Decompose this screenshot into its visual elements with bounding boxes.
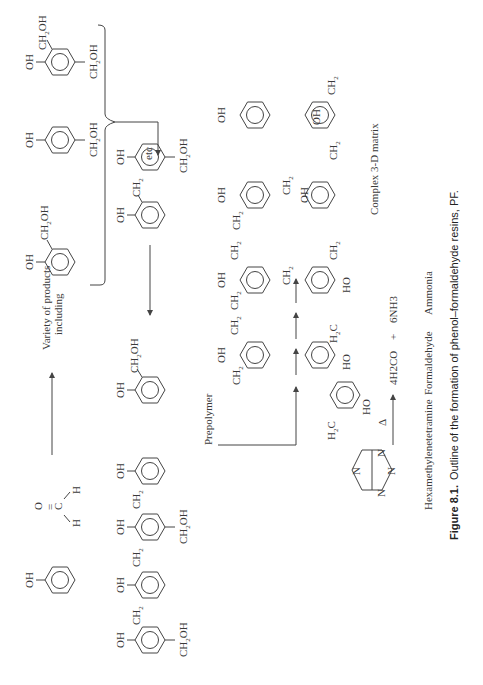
formaldehyde-structure: O = C H H	[32, 486, 82, 527]
ammonia-name: Ammonia	[422, 271, 434, 315]
hmta-structure: N N N N	[350, 449, 397, 497]
svg-text:CH2OH: CH2OH	[177, 622, 192, 657]
matrix-label: Complex 3-D matrix	[368, 123, 380, 215]
methylol-product-1: OH CH2OH	[23, 205, 75, 275]
single-methylol-structure: OH CH2OH	[114, 338, 165, 403]
svg-text:CH2: CH2	[130, 178, 145, 197]
matrix-structure: OH CH2 CH2 OH CH2 CH2 OH CH2 CH2 CH2 HO …	[215, 76, 372, 440]
phenol-structure: OH	[23, 567, 75, 593]
svg-text:CH2: CH2	[130, 606, 145, 625]
svg-text:O: O	[32, 502, 44, 510]
svg-text:CH2OH: CH2OH	[38, 205, 53, 240]
svg-text:CH2: CH2	[325, 76, 340, 95]
hmta-name: Hexamethylenetetramine	[422, 399, 434, 510]
svg-text:4H2CO: 4H2CO	[387, 351, 399, 385]
svg-text:C: C	[52, 503, 64, 510]
svg-text:HO: HO	[340, 354, 352, 370]
svg-text:CH2: CH2	[228, 316, 243, 335]
formaldehyde-name: Formaldehyde	[422, 331, 434, 395]
svg-text:OH: OH	[114, 382, 126, 398]
svg-text:OH: OH	[215, 272, 227, 288]
svg-text:N: N	[375, 489, 387, 497]
svg-text:CH2: CH2	[130, 548, 145, 567]
svg-text:CH2: CH2	[230, 366, 245, 385]
svg-text:including: including	[52, 293, 64, 335]
svg-text:OH: OH	[114, 149, 126, 165]
prepolymer-label: Prepolymer	[202, 393, 214, 445]
svg-text:CH2OH: CH2OH	[36, 15, 51, 50]
svg-text:OH: OH	[114, 207, 126, 223]
heat-symbol: Δ	[376, 419, 388, 426]
svg-text:CH2: CH2	[280, 176, 295, 195]
svg-text:H: H	[70, 519, 82, 527]
svg-text:OH: OH	[114, 463, 126, 479]
figure-caption: Figure 8.1.Outline of the formation of p…	[448, 190, 460, 540]
svg-text:CH2: CH2	[228, 241, 243, 260]
figure-page: OH O = C H H Variety of products includi…	[0, 0, 483, 685]
svg-text:N: N	[375, 449, 387, 457]
svg-text:CH2: CH2	[130, 490, 145, 509]
svg-text:OH: OH	[298, 187, 310, 203]
svg-text:N: N	[385, 467, 397, 475]
svg-text:HO: HO	[360, 399, 372, 415]
svg-text:CH2OH: CH2OH	[177, 509, 192, 544]
svg-text:CH2: CH2	[228, 291, 243, 310]
products-label: Variety of products including	[40, 266, 64, 350]
svg-text:N: N	[350, 467, 362, 475]
svg-text:CH2: CH2	[280, 266, 295, 285]
svg-text:OH: OH	[215, 187, 227, 203]
svg-text:Variety of products: Variety of products	[40, 266, 52, 350]
svg-text:HO: HO	[340, 277, 352, 293]
methylol-product-3: OH CH2OH CH2OH	[23, 15, 102, 79]
svg-text:6NH3: 6NH3	[387, 296, 399, 323]
methylol-product-2: OH CH2OH	[23, 122, 102, 157]
svg-text:OH: OH	[114, 577, 126, 593]
caption-text: Outline of the formation of phenol–forma…	[448, 190, 460, 480]
svg-text:+: +	[387, 334, 399, 340]
svg-text:CH2OH: CH2OH	[87, 122, 102, 157]
phenol-oh-label: OH	[23, 572, 35, 588]
svg-text:CH2OH: CH2OH	[177, 138, 192, 173]
figure-number: Figure 8.1.	[448, 485, 460, 540]
svg-text:CH2OH: CH2OH	[87, 44, 102, 79]
svg-text:OH: OH	[215, 107, 227, 123]
svg-text:OH: OH	[23, 54, 35, 70]
reaction-diagram: OH O = C H H Variety of products includi…	[0, 0, 483, 685]
svg-text:OH: OH	[114, 632, 126, 648]
prepolymer-structure: OH CH2OH CH2 OH CH2 OH CH2OH CH2 OH	[114, 458, 192, 657]
svg-text:OH: OH	[215, 347, 227, 363]
svg-text:OH: OH	[114, 519, 126, 535]
svg-text:OH: OH	[23, 254, 35, 270]
svg-text:CH2OH: CH2OH	[128, 338, 143, 373]
svg-text:H: H	[70, 486, 82, 494]
svg-text:OH: OH	[23, 132, 35, 148]
svg-text:H2C: H2C	[325, 421, 340, 440]
svg-text:CH2: CH2	[327, 141, 342, 160]
svg-text:H2C: H2C	[327, 324, 342, 343]
svg-text:CH2: CH2	[327, 241, 342, 260]
svg-text:CH2: CH2	[230, 211, 245, 230]
